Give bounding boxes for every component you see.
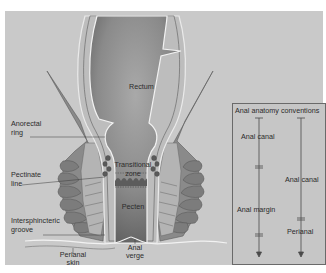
label-pectinate-line-line1: Pectinate: [11, 171, 41, 179]
convention-left-anal-canal: Anal canal: [241, 133, 275, 141]
label-anal-verge-line2: verge: [117, 252, 153, 260]
label-pectinate-line-line2: line: [11, 180, 22, 188]
label-intersphincteric-groove-line1: Intersphincteric: [11, 217, 60, 225]
anal-anatomy-conventions-box: Anal anatomy conventions Anal canal Anal…: [232, 103, 326, 265]
label-anorectal-ring-line2: ring: [11, 129, 23, 137]
convention-right-anal-canal: Anal canal: [285, 176, 319, 184]
label-transitional-zone-line2: zone: [111, 170, 155, 178]
label-pecten: Pecten: [111, 203, 155, 211]
label-anorectal-ring-line1: Anorectal: [11, 120, 41, 128]
label-transitional-zone-line1: Transitional: [111, 161, 155, 169]
conventions-scale-lines: [233, 104, 325, 264]
label-rectum: Rectum: [129, 83, 154, 91]
anal-anatomy-figure: Rectum Anorectal ring Pectinate line Tra…: [5, 11, 323, 265]
convention-right-perianal: Perianal: [287, 228, 313, 236]
label-perianal-skin-line2: skin: [51, 259, 95, 267]
label-intersphincteric-groove-line2: groove: [11, 226, 33, 234]
convention-left-anal-margin: Anal margin: [237, 206, 275, 214]
